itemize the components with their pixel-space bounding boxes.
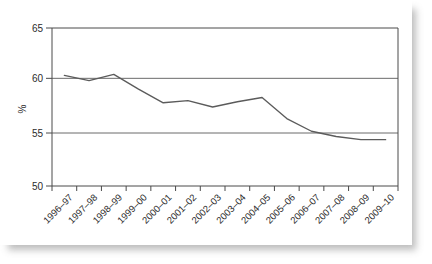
- chart-svg: 65 60 55 50 % 1996–971997–981998–991999–…: [0, 0, 412, 245]
- y-tick-label-50: 50: [32, 181, 44, 192]
- y-tick-marks: [46, 28, 52, 186]
- x-tick-marks: [52, 186, 398, 191]
- x-tick-labels: 1996–971997–981998–991999–002000–012001–…: [41, 192, 396, 226]
- y-tick-label-55: 55: [32, 128, 44, 139]
- line-chart: 65 60 55 50 % 1996–971997–981998–991999–…: [0, 0, 412, 245]
- plot-area-background: [52, 28, 398, 186]
- y-tick-labels: 65 60 55 50: [32, 23, 44, 192]
- scanned-page-surface: 65 60 55 50 % 1996–971997–981998–991999–…: [0, 0, 412, 245]
- chart-page: 65 60 55 50 % 1996–971997–981998–991999–…: [0, 0, 432, 264]
- y-tick-label-65: 65: [32, 23, 44, 34]
- y-axis-title: %: [17, 104, 28, 113]
- y-tick-label-60: 60: [32, 73, 44, 84]
